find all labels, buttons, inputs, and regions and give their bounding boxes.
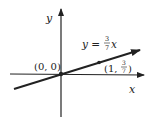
svg-text:x: x (111, 38, 117, 50)
x-axis (10, 74, 144, 75)
svg-text:(1,: (1, (104, 63, 117, 74)
point-1-3-7-label: (1, 3 7 ) (104, 59, 132, 74)
origin-label: (0, 0) (34, 61, 61, 72)
svg-text:3: 3 (122, 59, 126, 66)
x-axis-label: x (129, 83, 136, 96)
coordinate-plane: y x y = 3 7 x (0, 0) (1, 3 7 ) (0, 0, 152, 122)
equation-label: y = 3 7 x (81, 35, 117, 52)
svg-text:3: 3 (105, 35, 109, 43)
y-axis-label: y (45, 12, 53, 25)
point-origin (59, 72, 63, 76)
svg-text:y =: y = (81, 38, 100, 50)
svg-text:7: 7 (105, 44, 109, 52)
point-1-3-7 (97, 61, 101, 65)
svg-text:): ) (128, 63, 132, 74)
svg-text:7: 7 (122, 67, 126, 74)
